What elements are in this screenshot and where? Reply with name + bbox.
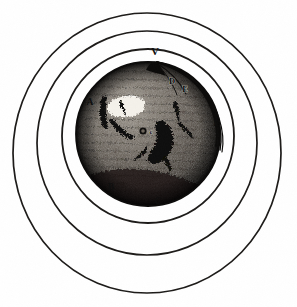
paper-grain-overlay bbox=[0, 0, 297, 307]
engraving-figure: V D E A F c B C bbox=[0, 0, 297, 307]
figure-canvas: V D E A F c B C bbox=[0, 0, 297, 307]
